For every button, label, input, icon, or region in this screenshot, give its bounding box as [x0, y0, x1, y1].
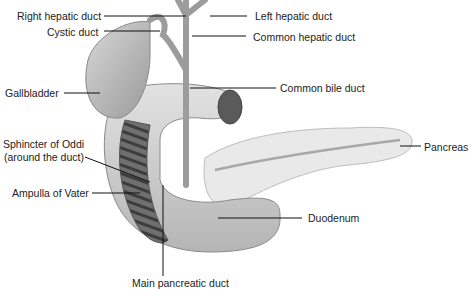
label-gallbladder: Gallbladder [5, 87, 59, 99]
label-duodenum: Duodenum [308, 212, 359, 224]
label-common-bile-duct: Common bile duct [280, 82, 365, 94]
label-common-hepatic-duct: Common hepatic duct [253, 31, 355, 43]
label-right-hepatic-duct: Right hepatic duct [17, 10, 101, 22]
label-ampulla-of-vater: Ampulla of Vater [12, 187, 89, 199]
label-left-hepatic-duct: Left hepatic duct [255, 10, 332, 22]
label-sphincter-of-oddi-note: (around the duct) [4, 151, 84, 163]
label-sphincter-of-oddi: Sphincter of Oddi [3, 138, 84, 150]
label-main-pancreatic-duct: Main pancreatic duct [132, 277, 229, 289]
label-cystic-duct: Cystic duct [47, 26, 98, 38]
pancreas-shape [204, 127, 412, 206]
label-pancreas: Pancreas [424, 141, 468, 153]
